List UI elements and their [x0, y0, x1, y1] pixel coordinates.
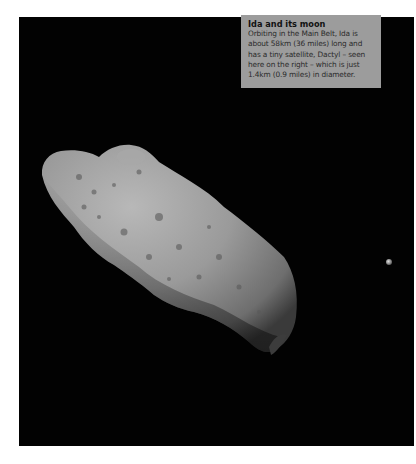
caption-title: Ida and its moon	[248, 19, 376, 29]
caption-body: Orbiting in the Main Belt, Ida is about …	[248, 29, 376, 80]
caption-box: Ida and its moon Orbiting in the Main Be…	[241, 15, 381, 88]
moon-dactyl	[386, 259, 392, 265]
asteroid-ida	[42, 145, 297, 355]
